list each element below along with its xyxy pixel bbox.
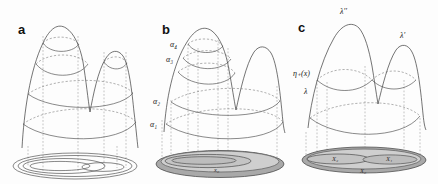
panel-b-projection-lines (162, 40, 277, 166)
panel-c-surface (308, 24, 426, 130)
panel-c-drawing: c (292, 0, 438, 184)
label-alpha-2: α₂ (153, 97, 160, 106)
label-region-x0: X₀ (359, 167, 366, 174)
panel-b-letter: b (162, 22, 170, 37)
panel-a-base (13, 153, 137, 179)
label-x-zero: x₀ (213, 166, 219, 173)
panel-c: c (292, 0, 438, 184)
panel-b-contours (166, 39, 283, 139)
panel-c-letter: c (298, 20, 305, 35)
label-lambda: λ (303, 87, 308, 96)
panel-a-surface (22, 26, 138, 148)
panel-b-drawing: b (146, 0, 292, 184)
label-alpha-1: α₁ (150, 120, 157, 129)
panel-a-drawing: a (0, 0, 146, 184)
label-alpha-4: α₄ (170, 40, 177, 49)
label-lambda-double-prime: λ′′ (339, 7, 347, 16)
label-lambda-prime: λ′ (399, 31, 405, 40)
panel-a: a (0, 0, 146, 184)
panel-a-letter: a (18, 22, 26, 37)
label-eta-plus-of-x: η₊(x) (293, 69, 310, 78)
panel-b-surface (164, 28, 285, 133)
label-region-x2: X₂ (331, 155, 339, 162)
panel-b-base (156, 151, 284, 178)
figure-container: a (0, 0, 438, 184)
label-region-x1: X₁ (385, 155, 392, 162)
panel-b: b (146, 0, 292, 184)
label-alpha-3: α₃ (166, 55, 173, 64)
